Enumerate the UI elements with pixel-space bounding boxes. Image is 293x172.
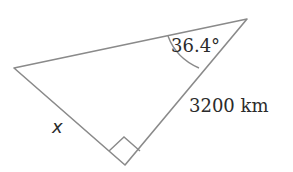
unknown-side-label: x — [51, 116, 63, 137]
side-length-label: 3200 km — [189, 95, 269, 116]
angle-label: 36.4° — [171, 35, 220, 56]
right-angle-marker — [109, 137, 140, 151]
triangle-diagram: 36.4° 3200 km x — [0, 0, 293, 172]
